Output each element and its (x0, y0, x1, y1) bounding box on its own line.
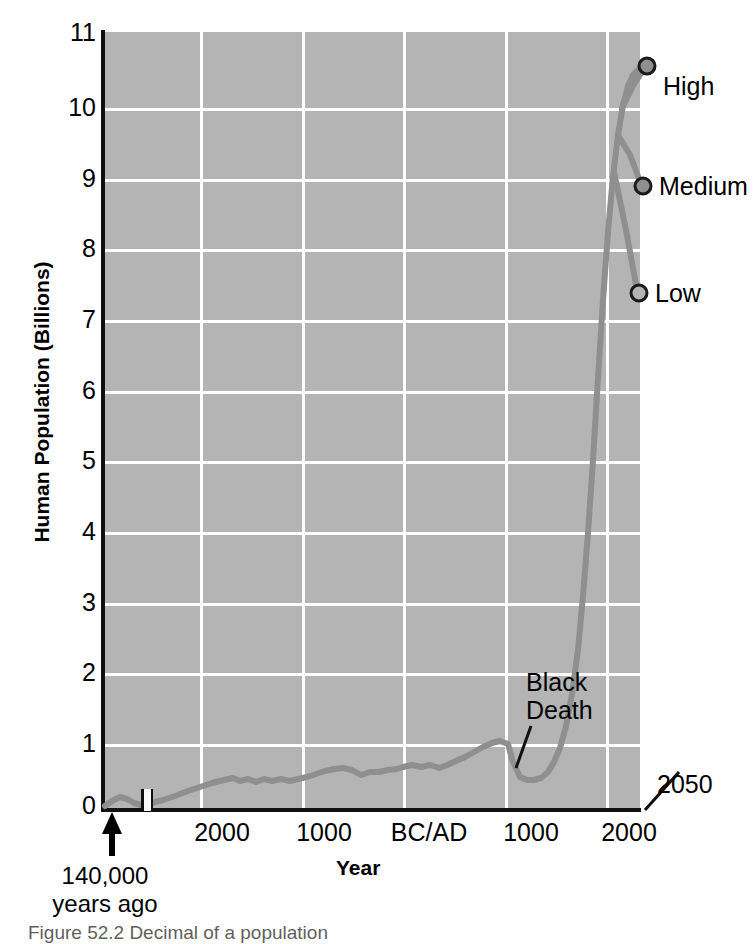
origin-line-2: years ago (30, 890, 180, 918)
origin-arrow-icon (102, 812, 122, 856)
gridline-x-1000ad (505, 32, 508, 810)
y-tick-0: 0 (34, 793, 96, 818)
gridline-x-bcad (403, 32, 406, 810)
black-death-line-1: Black (526, 668, 593, 696)
gridline-x-2000ad (606, 32, 609, 810)
x-tick-2000ad: 2000 (601, 818, 657, 846)
gridline-y-5 (104, 461, 640, 464)
gridline-x-2000bc (200, 32, 203, 810)
gridline-y-8 (104, 249, 640, 252)
x-axis-line (104, 808, 641, 812)
gridline-y-3 (104, 603, 640, 606)
y-tick-11: 11 (34, 20, 96, 45)
gridline-y-4 (104, 532, 640, 535)
y-tick-2: 2 (34, 660, 96, 685)
x-tick-1000ad: 1000 (503, 818, 559, 846)
x-tick-2000bc: 2000 (194, 818, 250, 846)
gridline-y-1 (104, 744, 640, 747)
gridline-y-9 (104, 179, 640, 182)
black-death-line-2: Death (526, 696, 593, 724)
y-tick-1: 1 (34, 731, 96, 756)
y-tick-9: 9 (34, 166, 96, 191)
gridline-x-1000bc (302, 32, 305, 810)
series-label-high: High (663, 74, 714, 99)
figure-caption: Figure 52.2 Decimal of a population (28, 922, 328, 944)
y-tick-10: 10 (34, 95, 96, 120)
gridline-y-10 (104, 108, 640, 111)
origin-line-1: 140,000 (30, 862, 180, 890)
gridline-y-6 (104, 391, 640, 394)
series-label-low: Low (655, 281, 701, 306)
y-axis-title: Human Population (Billions) (30, 192, 54, 612)
annotation-black-death: Black Death (526, 668, 593, 724)
marker-high (639, 58, 655, 74)
x-tick-1000bc: 1000 (296, 818, 352, 846)
gridline-y-7 (104, 320, 640, 323)
series-label-medium: Medium (659, 174, 748, 199)
x-tick-bcad: BC/AD (391, 818, 467, 846)
x-axis-title: Year (336, 856, 380, 880)
annotation-origin: 140,000 years ago (30, 862, 180, 918)
y-axis-line (101, 30, 105, 812)
label-projection-year: 2050 (657, 772, 713, 797)
